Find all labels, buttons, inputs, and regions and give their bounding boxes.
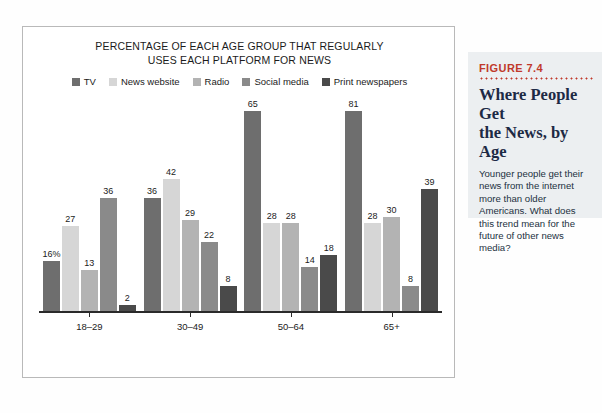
bar-item[interactable]: 13 xyxy=(81,99,98,311)
x-tick-mark xyxy=(190,313,191,317)
bar[interactable] xyxy=(144,198,161,311)
chart-title-line-2: USES EACH PLATFORM FOR NEWS xyxy=(23,54,456,68)
figure-caption-panel: FIGURE 7.4 Where People Get the News, by… xyxy=(468,52,602,218)
bar-item[interactable]: 2 xyxy=(119,99,136,311)
figure-headline-line-1: Where People Get xyxy=(479,85,593,123)
legend-label-social-media: Social media xyxy=(254,76,308,87)
bar-value-label: 16% xyxy=(42,249,60,259)
bar-item[interactable]: 8 xyxy=(402,99,419,311)
bar-item[interactable]: 42 xyxy=(163,99,180,311)
bar-value-label: 65 xyxy=(248,99,258,109)
bar[interactable] xyxy=(345,111,362,311)
x-tick-mark xyxy=(392,313,393,317)
bar[interactable] xyxy=(244,111,261,311)
bar-value-label: 36 xyxy=(103,186,113,196)
legend-swatch-icon-print-newspapers xyxy=(322,78,330,86)
bar[interactable] xyxy=(421,189,438,311)
legend-label-tv: TV xyxy=(84,76,96,87)
bar[interactable] xyxy=(62,226,79,311)
bar[interactable] xyxy=(220,286,237,311)
bar-value-label: 39 xyxy=(425,177,435,187)
legend-item-print-newspapers: Print newspapers xyxy=(322,76,407,87)
legend-item-social-media: Social media xyxy=(242,76,308,87)
bar-value-label: 36 xyxy=(147,186,157,196)
bar[interactable] xyxy=(263,223,280,311)
bar-value-label: 13 xyxy=(84,258,94,268)
figure-number: FIGURE 7.4 xyxy=(479,62,593,74)
dotted-divider xyxy=(479,77,593,80)
x-tick: 50–64 xyxy=(241,313,342,337)
bar-item[interactable]: 28 xyxy=(282,99,299,311)
bar-item[interactable]: 36 xyxy=(144,99,161,311)
bar[interactable] xyxy=(182,220,199,311)
bar-value-label: 42 xyxy=(166,167,176,177)
bar-group: 364229228 xyxy=(140,99,241,311)
bar[interactable] xyxy=(383,217,400,311)
bar-item[interactable]: 14 xyxy=(301,99,318,311)
x-tick-mark xyxy=(89,313,90,317)
figure-headline: Where People Get the News, by Age xyxy=(479,85,593,161)
chart-title: PERCENTAGE OF EACH AGE GROUP THAT REGULA… xyxy=(23,40,456,67)
bar-item[interactable]: 22 xyxy=(201,99,218,311)
bar-group: 16%2713362 xyxy=(39,99,140,311)
legend-label-print-newspapers: Print newspapers xyxy=(334,76,407,87)
bar-item[interactable]: 65 xyxy=(244,99,261,311)
bar-value-label: 28 xyxy=(286,211,296,221)
bar-value-label: 8 xyxy=(408,274,413,284)
x-tick-label: 18–29 xyxy=(39,321,140,332)
bar-item[interactable]: 28 xyxy=(263,99,280,311)
figure-page: PERCENTAGE OF EACH AGE GROUP THAT REGULA… xyxy=(0,0,602,413)
legend-swatch-icon-social-media xyxy=(242,78,250,86)
bar-item[interactable]: 18 xyxy=(320,99,337,311)
x-tick: 30–49 xyxy=(140,313,241,337)
bar[interactable] xyxy=(100,198,117,311)
chart-title-line-1: PERCENTAGE OF EACH AGE GROUP THAT REGULA… xyxy=(23,40,456,54)
bar-value-label: 2 xyxy=(125,293,130,303)
bar-item[interactable]: 81 xyxy=(345,99,362,311)
bar-item[interactable]: 36 xyxy=(100,99,117,311)
bar[interactable] xyxy=(320,255,337,311)
bar-group: 6528281418 xyxy=(241,99,342,311)
bar[interactable] xyxy=(81,270,98,311)
legend-item-tv: TV xyxy=(72,76,96,87)
legend-label-news-website: News website xyxy=(121,76,180,87)
figure-body-text: Younger people get their news from the i… xyxy=(479,168,593,255)
bar[interactable] xyxy=(43,261,60,311)
bar-value-label: 14 xyxy=(305,255,315,265)
bar-value-label: 81 xyxy=(349,99,359,109)
bar-item[interactable]: 28 xyxy=(364,99,381,311)
bar-value-label: 28 xyxy=(368,211,378,221)
bar[interactable] xyxy=(163,179,180,311)
legend-item-radio: Radio xyxy=(193,76,230,87)
bar[interactable] xyxy=(201,242,218,311)
bar-value-label: 18 xyxy=(324,243,334,253)
legend-swatch-icon-news-website xyxy=(109,78,117,86)
bar[interactable] xyxy=(282,223,299,311)
legend-swatch-icon-tv xyxy=(72,78,80,86)
bar-item[interactable]: 30 xyxy=(383,99,400,311)
x-axis-ticks: 18–2930–4950–6465+ xyxy=(39,313,442,337)
x-tick: 65+ xyxy=(341,313,442,337)
bar-value-label: 22 xyxy=(204,230,214,240)
legend-label-radio: Radio xyxy=(205,76,230,87)
bar-item[interactable]: 8 xyxy=(220,99,237,311)
bar-value-label: 30 xyxy=(387,205,397,215)
bar[interactable] xyxy=(364,223,381,311)
bar[interactable] xyxy=(301,267,318,311)
bar-value-label: 28 xyxy=(267,211,277,221)
bar-item[interactable]: 16% xyxy=(43,99,60,311)
x-tick-label: 65+ xyxy=(341,321,442,332)
plot-area: 16%27133623642292286528281418812830839 1… xyxy=(39,99,442,337)
x-tick-label: 30–49 xyxy=(140,321,241,332)
figure-headline-line-2: the News, by Age xyxy=(479,123,593,161)
bar-item[interactable]: 29 xyxy=(182,99,199,311)
bar-group: 812830839 xyxy=(341,99,442,311)
bar[interactable] xyxy=(402,286,419,311)
x-tick-label: 50–64 xyxy=(241,321,342,332)
bar-item[interactable]: 39 xyxy=(421,99,438,311)
legend-swatch-icon-radio xyxy=(193,78,201,86)
bar-value-label: 29 xyxy=(185,208,195,218)
legend-item-news-website: News website xyxy=(109,76,180,87)
bar-item[interactable]: 27 xyxy=(62,99,79,311)
bar-groups: 16%27133623642292286528281418812830839 xyxy=(39,99,442,311)
